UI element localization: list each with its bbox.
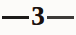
right-dash-rule xyxy=(47,16,74,19)
page-number-marker: 3 xyxy=(0,0,76,35)
folio-row: 3 xyxy=(2,4,74,31)
left-dash-rule xyxy=(2,16,29,19)
page-number-text: 3 xyxy=(31,3,45,30)
